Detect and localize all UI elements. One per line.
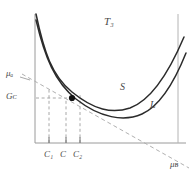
solid-phase-curve	[36, 14, 184, 111]
free-energy-composition-figure: T₃ S L μₐ μʙ Gᴄ C₁ C C₂	[0, 0, 196, 179]
chart-canvas	[0, 0, 196, 179]
mu-b-label: μʙ	[170, 160, 178, 169]
mu-a-label: μₐ	[6, 69, 13, 78]
c2-tick-label: C₂	[73, 150, 82, 159]
liquid-phase-curve	[36, 20, 186, 118]
liquid-curve-label: L	[150, 100, 156, 110]
c1-tick-label: C₁	[44, 150, 53, 159]
g-c-label: Gᴄ	[6, 92, 17, 101]
solid-curve-label: S	[120, 82, 125, 92]
temperature-label: T₃	[104, 16, 114, 27]
x-axis-ticks	[49, 137, 80, 143]
common-tangent-point	[69, 95, 75, 101]
c-tick-label: C	[60, 150, 66, 159]
